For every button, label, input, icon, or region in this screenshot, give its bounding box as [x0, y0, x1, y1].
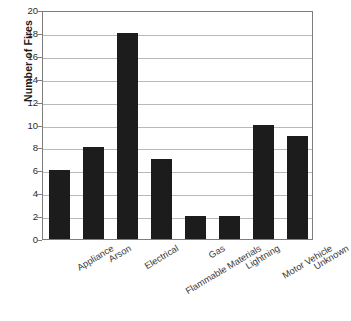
bar: [287, 136, 308, 239]
x-axis-tick-label: Electrical: [143, 244, 180, 271]
y-axis-tick-label: 10: [12, 121, 38, 131]
plot-area: [42, 11, 313, 240]
bar: [151, 159, 172, 239]
y-axis-tick-label: 14: [12, 75, 38, 85]
x-axis-tick-label: Gas: [208, 244, 227, 261]
y-axis-tick-label: 12: [12, 98, 38, 108]
bar: [83, 147, 104, 239]
bars-group: [43, 12, 312, 239]
bar: [49, 170, 70, 239]
y-axis-tick-label: 6: [12, 166, 38, 176]
y-axis-tick-label: 20: [12, 6, 38, 16]
y-axis-tick-label: 18: [12, 29, 38, 39]
bar: [219, 216, 240, 239]
y-axis-tick-label: 16: [12, 52, 38, 62]
bar: [117, 33, 138, 239]
y-axis-tick-label: 2: [12, 212, 38, 222]
bar: [185, 216, 206, 239]
y-axis-tick-mark: [37, 240, 42, 241]
y-axis-tick-label: 8: [12, 143, 38, 153]
y-axis-tick-label: 0: [12, 235, 38, 245]
y-axis-tick-label: 4: [12, 189, 38, 199]
bar: [253, 125, 274, 240]
